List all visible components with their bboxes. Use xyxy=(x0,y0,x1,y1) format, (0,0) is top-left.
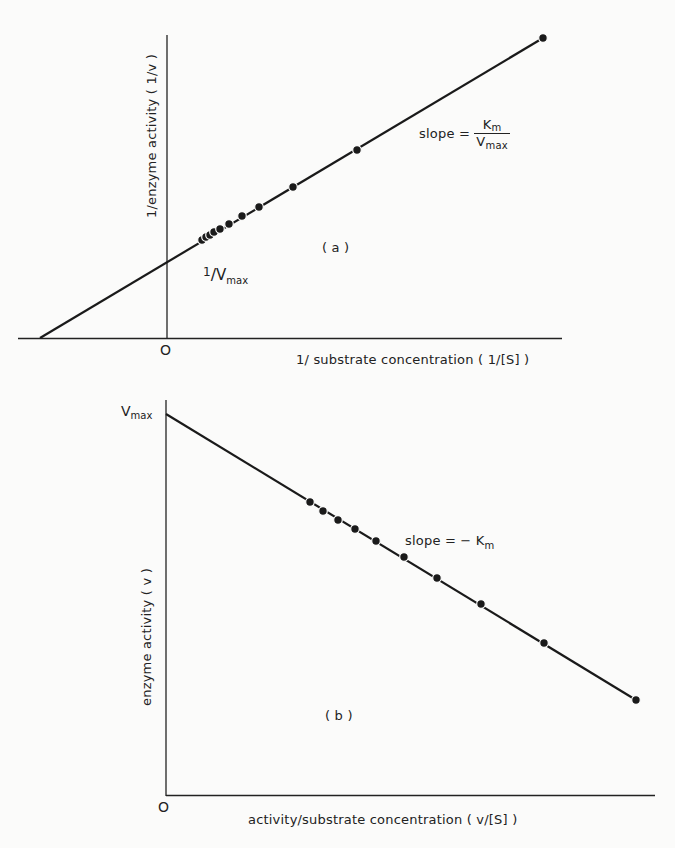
panel-a-slope-annotation: slope = Km Vmax xyxy=(419,117,510,150)
panel-b-slope-annotation: slope = − Km xyxy=(405,533,494,548)
panel-b-intercept-label: Vmax xyxy=(121,403,152,419)
slope-fraction: Km Vmax xyxy=(474,117,509,150)
panel-a-x-axis-label: 1/ substrate concentration ( 1/[S] ) xyxy=(296,352,529,367)
data-point xyxy=(372,537,381,546)
data-point xyxy=(225,220,234,229)
panel-a-intercept-label: 1/Vmax xyxy=(203,265,248,284)
data-point xyxy=(306,498,315,507)
data-point xyxy=(334,516,343,525)
panel-b-label: ( b ) xyxy=(325,708,353,723)
data-point xyxy=(319,507,328,516)
panel-b-origin-label: O xyxy=(158,799,169,815)
data-point xyxy=(539,34,548,43)
data-point xyxy=(216,225,225,234)
data-point xyxy=(289,183,298,192)
data-point xyxy=(351,525,360,534)
data-point xyxy=(353,146,362,155)
data-point xyxy=(400,553,409,562)
panel-a-origin-label: O xyxy=(160,342,171,358)
data-point xyxy=(540,639,549,648)
data-point xyxy=(433,574,442,583)
data-point xyxy=(238,212,247,221)
data-point xyxy=(255,203,264,212)
panel-a-label: ( a ) xyxy=(322,240,349,255)
data-point xyxy=(632,696,641,705)
panel-a-y-axis-label: 1/enzyme activity ( 1/v ) xyxy=(144,54,159,218)
panel-b-x-axis-label: activity/substrate concentration ( v/[S]… xyxy=(248,812,517,827)
panel-b-y-axis-label: enzyme activity ( v ) xyxy=(139,568,154,706)
data-point xyxy=(477,600,486,609)
